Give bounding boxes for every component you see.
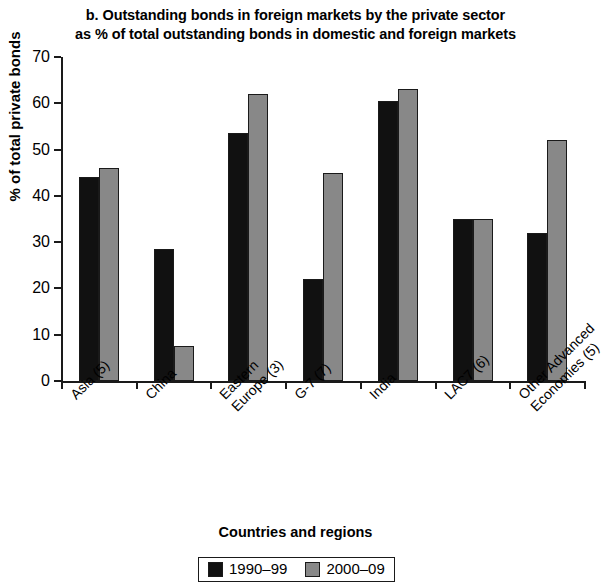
legend-swatch bbox=[305, 562, 320, 577]
legend-item: 1990–99 bbox=[208, 561, 287, 577]
y-tick-mark bbox=[54, 380, 61, 382]
bar bbox=[248, 94, 268, 381]
bar bbox=[378, 101, 398, 381]
chart-legend: 1990–992000–09 bbox=[198, 557, 395, 582]
y-tick-label: 50 bbox=[32, 140, 50, 160]
y-tick-mark bbox=[54, 149, 61, 151]
x-tick-mark bbox=[435, 381, 437, 389]
chart-title-line-2: as % of total outstanding bonds in domes… bbox=[0, 25, 591, 44]
x-tick-mark bbox=[285, 381, 287, 389]
y-tick-label: 30 bbox=[32, 232, 50, 252]
legend-item: 2000–09 bbox=[305, 561, 384, 577]
chart-title: b. Outstanding bonds in foreign markets … bbox=[0, 6, 591, 44]
y-tick-label: 40 bbox=[32, 186, 50, 206]
y-tick-label: 70 bbox=[32, 47, 50, 67]
legend-swatch bbox=[208, 562, 223, 577]
x-tick-mark bbox=[509, 381, 511, 389]
x-tick-mark bbox=[210, 381, 212, 389]
bar bbox=[99, 168, 119, 381]
bar bbox=[228, 133, 248, 381]
bar bbox=[453, 219, 473, 381]
legend-label: 1990–99 bbox=[229, 561, 287, 577]
plot-area bbox=[61, 57, 586, 383]
y-tick-mark bbox=[54, 287, 61, 289]
legend-label: 2000–09 bbox=[326, 561, 384, 577]
y-tick-mark bbox=[54, 195, 61, 197]
y-tick-label: 0 bbox=[41, 371, 50, 391]
bar bbox=[398, 89, 418, 381]
bar bbox=[323, 173, 343, 381]
y-tick-label: 60 bbox=[32, 93, 50, 113]
x-tick-mark bbox=[136, 381, 138, 389]
y-tick-mark bbox=[54, 241, 61, 243]
x-tick-mark bbox=[584, 381, 586, 389]
y-axis-title: % of total private bonds bbox=[6, 0, 23, 247]
y-tick-mark bbox=[54, 334, 61, 336]
x-tick-mark bbox=[360, 381, 362, 389]
y-tick-label: 10 bbox=[32, 325, 50, 345]
x-tick-mark bbox=[61, 381, 63, 389]
bar bbox=[527, 233, 547, 381]
y-tick-mark bbox=[54, 102, 61, 104]
bar bbox=[154, 249, 174, 381]
y-tick-label: 20 bbox=[32, 278, 50, 298]
chart-title-line-1: b. Outstanding bonds in foreign markets … bbox=[0, 6, 591, 25]
y-tick-mark bbox=[54, 56, 61, 58]
x-axis-title: Countries and regions bbox=[0, 524, 591, 540]
bar bbox=[79, 177, 99, 381]
